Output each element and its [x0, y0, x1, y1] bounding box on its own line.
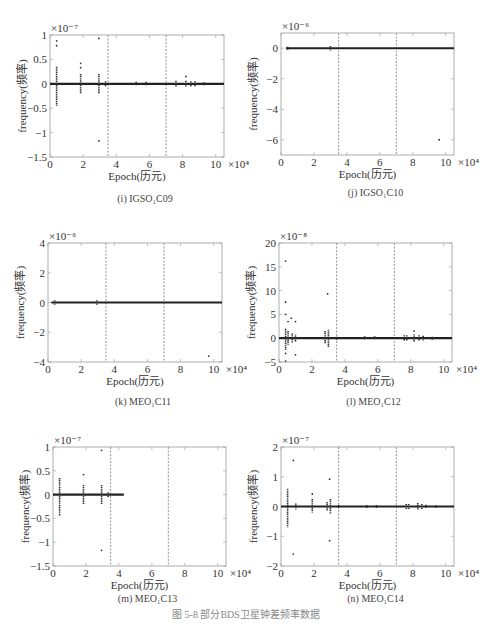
x-tick-label: 4: [116, 567, 122, 579]
data-point-outlier: [80, 67, 82, 69]
data-point-outlier: [98, 140, 100, 142]
plot-frame: [53, 447, 226, 566]
x-tick-label: 8: [178, 363, 184, 375]
data-point-outlier: [98, 38, 100, 40]
x-tick-label: 10: [438, 363, 450, 375]
y-tick-label: 0: [40, 297, 46, 309]
chart-panel-i: 0246810−1.5−1−0.500.51×10⁻⁷×10⁴Epoch(历元)…: [15, 22, 249, 205]
y-tick-label: −0.5: [30, 512, 50, 524]
y-tick-label: 1: [45, 441, 51, 453]
data-point-outlier: [295, 321, 297, 323]
x-tick-label: 6: [149, 567, 155, 579]
y-tick-label: 2: [40, 267, 46, 279]
y-tick-label: −1: [38, 536, 50, 548]
data-point-outlier: [285, 353, 287, 355]
x-tick-label: 10: [210, 158, 222, 170]
y-tick-label: −2: [266, 560, 278, 572]
y-tick-label: −1.5: [27, 151, 47, 163]
x-tick-label: 0: [278, 567, 284, 579]
x-axis-label: Epoch(历元): [339, 168, 397, 181]
x-tick-label: 2: [309, 363, 315, 375]
x-axis-label: Epoch(历元): [111, 579, 169, 592]
data-point-outlier: [56, 45, 58, 47]
x-exponent-label: ×10⁴: [228, 158, 249, 170]
data-point-outlier: [285, 360, 287, 362]
data-point-outlier: [285, 301, 287, 303]
y-tick-label: 1: [273, 471, 279, 483]
data-point-outlier: [311, 493, 313, 495]
x-axis-label: Epoch(历元): [106, 375, 164, 388]
x-tick-label: 6: [377, 567, 383, 579]
y-exponent-label: ×10⁻⁷: [51, 22, 78, 34]
y-tick-label: −2: [266, 73, 278, 85]
y-tick-label: 20: [265, 237, 277, 249]
y-axis-label: frequency(频率): [244, 266, 258, 340]
data-point-outlier: [295, 354, 297, 356]
x-tick-label: 0: [50, 567, 56, 579]
figure-caption: 图 5-8 部分BDS卫星钟差频率数据: [172, 608, 320, 620]
x-tick-label: 10: [440, 156, 452, 168]
data-point-outlier: [329, 540, 331, 542]
data-point-outlier: [290, 317, 292, 319]
data-point-outlier: [413, 330, 415, 332]
y-tick-label: −1: [35, 127, 47, 139]
x-axis-label: Epoch(历元): [108, 170, 166, 183]
plot-frame: [279, 243, 452, 362]
data-point-outlier: [101, 549, 103, 551]
y-exponent-label: ×10⁻⁶: [49, 230, 76, 242]
y-tick-label: 0: [273, 501, 279, 513]
chart-panel-j: 0246810−6−4−20×10⁻⁶×10⁴Epoch(历元)frequenc…: [246, 20, 479, 199]
x-tick-label: 10: [208, 363, 220, 375]
x-tick-label: 6: [147, 158, 153, 170]
figure-canvas: 0246810−1.5−1−0.500.51×10⁻⁷×10⁴Epoch(历元)…: [0, 0, 492, 624]
y-exponent-label: ×10⁻⁸: [280, 230, 307, 242]
x-exponent-label: ×10⁴: [230, 567, 251, 579]
chart-panel-k: 0246810−4−2024×10⁻⁶×10⁴Epoch(历元)frequenc…: [13, 230, 247, 408]
data-point-outlier: [287, 321, 289, 323]
plot-frame: [281, 33, 454, 155]
x-tick-label: 10: [212, 567, 224, 579]
x-tick-label: 0: [276, 363, 282, 375]
data-point-outlier: [292, 553, 294, 555]
x-tick-label: 2: [80, 158, 86, 170]
y-tick-label: −5: [264, 356, 276, 368]
y-exponent-label: ×10⁻⁷: [282, 434, 309, 446]
x-exponent-label: ×10⁴: [456, 363, 477, 375]
data-point-outlier: [329, 478, 331, 480]
chart-panel-m: 0246810−1.5−1−0.500.51×10⁻⁷×10⁴Epoch(历元)…: [18, 434, 251, 605]
y-axis-label: frequency(频率): [246, 57, 260, 131]
y-tick-label: 2: [273, 441, 279, 453]
x-tick-label: 2: [78, 363, 84, 375]
chart-panel-l: 0246810−505101520×10⁻⁸×10⁴Epoch(历元)frequ…: [244, 230, 477, 408]
data-point-outlier: [438, 139, 440, 141]
y-tick-label: 15: [265, 261, 277, 273]
plot-frame: [50, 35, 224, 157]
x-tick-label: 4: [112, 363, 118, 375]
y-exponent-label: ×10⁻⁶: [282, 20, 309, 32]
y-axis-label: frequency(频率): [15, 59, 29, 133]
y-tick-label: −1: [266, 530, 278, 542]
x-tick-label: 8: [410, 567, 416, 579]
x-tick-label: 4: [114, 158, 120, 170]
data-point-outlier: [327, 293, 329, 295]
data-point-outlier: [56, 40, 58, 42]
y-tick-label: 10: [265, 285, 277, 297]
x-exponent-label: ×10⁴: [226, 363, 247, 375]
y-tick-label: −2: [33, 326, 45, 338]
x-tick-label: 8: [408, 363, 414, 375]
panel-caption: (k) MEO₁C11: [115, 396, 171, 408]
data-point-outlier: [292, 459, 294, 461]
x-tick-label: 6: [377, 156, 383, 168]
y-axis-label: frequency(频率): [13, 266, 27, 340]
x-tick-label: 2: [311, 567, 317, 579]
data-point-outlier: [185, 76, 187, 78]
data-point-outlier: [101, 449, 103, 451]
x-tick-label: 0: [278, 156, 284, 168]
data-point-outlier: [285, 314, 287, 316]
x-axis-label: Epoch(历元): [339, 579, 397, 592]
data-point-outlier: [83, 474, 85, 476]
panel-caption: (l) MEO₁C12: [346, 396, 400, 408]
y-axis-label: frequency(频率): [18, 470, 32, 544]
x-tick-label: 2: [311, 156, 317, 168]
y-tick-label: 0.5: [36, 465, 50, 477]
